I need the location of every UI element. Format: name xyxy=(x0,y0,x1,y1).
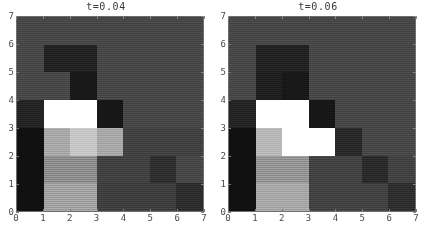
y-tick-mark xyxy=(16,72,19,73)
x-tick-label: 1 xyxy=(248,214,262,223)
x-tick-label: 0 xyxy=(9,214,23,223)
y-tick-label: 5 xyxy=(0,68,14,77)
y-tick-mark-right xyxy=(201,156,204,157)
heatmap-cell xyxy=(256,183,283,211)
heatmap-cell xyxy=(17,17,44,45)
heatmap-cell xyxy=(150,45,177,73)
x-tick-label: 2 xyxy=(63,214,77,223)
heatmap-cell xyxy=(17,45,44,73)
x-tick-mark xyxy=(16,209,17,212)
heatmap-cell xyxy=(123,45,150,73)
heatmap-cell xyxy=(176,17,203,45)
x-tick-mark-top xyxy=(150,16,151,19)
y-tick-mark-right xyxy=(201,128,204,129)
heatmap-cell xyxy=(123,72,150,100)
y-tick-mark-right xyxy=(201,44,204,45)
heatmap-cell xyxy=(256,156,283,184)
heatmap-cell xyxy=(229,183,256,211)
heatmap-cell xyxy=(17,100,44,128)
heatmap-cell xyxy=(229,72,256,100)
heatmap-cell xyxy=(150,183,177,211)
heatmap-cell xyxy=(70,17,97,45)
heatmap-cell xyxy=(123,156,150,184)
y-tick-mark xyxy=(16,44,19,45)
x-tick-mark-top xyxy=(416,16,417,19)
heatmap-cell xyxy=(176,100,203,128)
x-tick-mark-top xyxy=(309,16,310,19)
x-tick-mark xyxy=(177,209,178,212)
x-tick-label: 2 xyxy=(275,214,289,223)
y-tick-mark xyxy=(16,128,19,129)
heatmap-cell xyxy=(229,156,256,184)
heatmap-cell xyxy=(97,100,124,128)
y-tick-label: 2 xyxy=(212,152,226,161)
y-tick-mark xyxy=(228,44,231,45)
heatmap-cell xyxy=(362,100,389,128)
heatmap-cell xyxy=(282,17,309,45)
heatmap-cell xyxy=(229,45,256,73)
plot-area-left xyxy=(16,16,204,212)
heatmap-cell xyxy=(362,72,389,100)
heatmap-cell xyxy=(309,17,336,45)
x-tick-mark-top xyxy=(97,16,98,19)
x-tick-label: 0 xyxy=(221,214,235,223)
y-tick-mark-right xyxy=(413,184,416,185)
y-tick-label: 1 xyxy=(0,180,14,189)
x-tick-label: 5 xyxy=(143,214,157,223)
heatmap-cell xyxy=(256,128,283,156)
heatmap-cell xyxy=(97,17,124,45)
x-tick-label: 3 xyxy=(90,214,104,223)
x-tick-label: 3 xyxy=(302,214,316,223)
heatmap-cell xyxy=(97,72,124,100)
y-tick-label: 7 xyxy=(0,12,14,21)
heatmap-cell xyxy=(176,128,203,156)
heatmap-cell xyxy=(309,183,336,211)
x-tick-mark-top xyxy=(389,16,390,19)
y-tick-label: 3 xyxy=(212,124,226,133)
heatmap-cell xyxy=(176,45,203,73)
panel-title-left: t=0.04 xyxy=(0,1,212,12)
heatmap-cell xyxy=(44,17,71,45)
x-tick-mark xyxy=(97,209,98,212)
x-tick-mark-top xyxy=(255,16,256,19)
panel-title-right: t=0.06 xyxy=(212,1,424,12)
heatmap-cell xyxy=(282,128,309,156)
y-tick-label: 6 xyxy=(212,40,226,49)
heatmap-cell xyxy=(70,156,97,184)
heatmap-cell xyxy=(176,72,203,100)
heatmap-cell xyxy=(309,128,336,156)
heatmap-cell xyxy=(70,45,97,73)
heatmap-cell xyxy=(388,100,415,128)
heatmap-cell xyxy=(309,72,336,100)
x-tick-mark xyxy=(389,209,390,212)
heatmap-grid-left xyxy=(17,17,203,211)
y-tick-label: 4 xyxy=(0,96,14,105)
heatmap-cell xyxy=(176,183,203,211)
heatmap-cell xyxy=(44,100,71,128)
heatmap-cell xyxy=(70,72,97,100)
heatmap-cell xyxy=(362,156,389,184)
heatmap-cell xyxy=(70,128,97,156)
heatmap-cell xyxy=(335,128,362,156)
heatmap-cell xyxy=(17,156,44,184)
y-tick-mark xyxy=(228,72,231,73)
x-tick-mark-top xyxy=(70,16,71,19)
heatmap-cell xyxy=(123,17,150,45)
y-tick-mark-right xyxy=(201,72,204,73)
x-tick-label: 6 xyxy=(382,214,396,223)
x-tick-mark xyxy=(282,209,283,212)
heatmap-cell xyxy=(44,72,71,100)
heatmap-cell xyxy=(335,156,362,184)
x-tick-label: 7 xyxy=(197,214,211,223)
y-tick-mark xyxy=(16,156,19,157)
heatmap-cell xyxy=(97,156,124,184)
heatmap-cell xyxy=(17,183,44,211)
heatmap-cell xyxy=(97,183,124,211)
heatmap-cell xyxy=(17,72,44,100)
heatmap-cell xyxy=(97,128,124,156)
heatmap-cell xyxy=(44,183,71,211)
x-tick-mark-top xyxy=(43,16,44,19)
heatmap-cell xyxy=(229,128,256,156)
x-tick-mark xyxy=(204,209,205,212)
heatmap-cell xyxy=(150,156,177,184)
